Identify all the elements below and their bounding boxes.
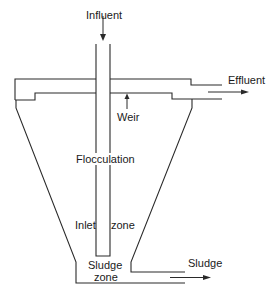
sludge-zone-label-line2: zone [94,271,118,283]
inlet-label: Inlet [75,219,96,231]
weir-line [15,93,222,100]
sludge-arrow-icon [170,275,211,280]
clarifier-diagram [0,0,276,298]
sludge-outlet-label: Sludge [188,257,222,269]
cone-right-wall [131,99,192,272]
tank-top-wall [15,79,222,100]
effluent-label: Effluent [228,74,265,86]
influent-label: Influent [86,9,122,21]
inlet-pipe [96,44,110,256]
weir-label: Weir [117,111,139,123]
weir-arrow-icon [125,94,130,110]
flocculation-label: Flocculation [76,153,135,165]
effluent-arrow-icon [208,90,249,95]
zone-label: zone [111,219,135,231]
sludge-zone-label-line1: Sludge [88,259,122,271]
